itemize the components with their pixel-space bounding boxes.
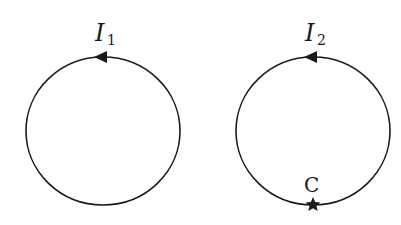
- loop-1-circle: [26, 57, 180, 205]
- point-c-star-icon: [306, 197, 321, 211]
- loop-1-current-subscript: 1: [107, 32, 116, 48]
- current-loop-2: I 2 C: [236, 19, 390, 211]
- loop-2-current-subscript: 2: [317, 32, 326, 48]
- diagram-canvas: I 1 I 2 C: [0, 0, 401, 225]
- loop-1-current-label: I: [94, 19, 105, 47]
- current-loop-1: I 1: [26, 19, 180, 205]
- loop-1-direction-arrow-icon: [94, 51, 107, 63]
- loop-2-direction-arrow-icon: [304, 51, 317, 63]
- point-c-label: C: [304, 173, 319, 197]
- loop-2-current-label: I: [304, 19, 315, 47]
